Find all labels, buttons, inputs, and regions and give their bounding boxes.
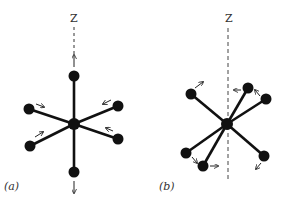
bond-lower-right — [74, 124, 118, 139]
bond-lower-left-back — [186, 124, 227, 153]
bond-lower-right — [227, 124, 264, 156]
displacement-arrow-icon — [255, 90, 260, 96]
panel-a: Z (a) — [4, 12, 124, 193]
panel-label-a: (a) — [4, 180, 19, 193]
atoms-b — [181, 83, 272, 172]
central-atom — [68, 118, 80, 130]
displacement-arrow-icon — [192, 157, 197, 163]
displacement-arrow-icon — [106, 128, 113, 131]
displacement-arrow-icon — [35, 132, 43, 137]
displacement-arrow-icon — [36, 104, 44, 107]
panel-label-b: (b) — [159, 180, 175, 193]
z-axis-label-b: Z — [225, 12, 233, 25]
atom-upper-left — [24, 104, 35, 115]
atom-lower-left-front — [198, 161, 209, 172]
bond-lower-left — [30, 124, 74, 146]
atom-upper-left — [186, 89, 197, 100]
bond-upper-left — [191, 94, 227, 124]
atom-upper-right-front — [243, 83, 254, 94]
bond-upper-left — [29, 109, 74, 124]
atom-lower-left-back — [181, 148, 192, 159]
displacement-arrow-icon — [103, 100, 111, 104]
z-axis-label-a: Z — [70, 12, 78, 25]
bond-lower-left-front — [203, 124, 227, 166]
atom-top — [69, 71, 80, 82]
panel-b: Z (b) — [159, 12, 272, 193]
displacement-arrow-icon — [195, 82, 203, 88]
atom-upper-right-back — [261, 94, 272, 105]
atom-lower-left — [25, 141, 36, 152]
molecular-vibration-figure: Z (a) Z (b) — [0, 0, 286, 205]
atom-lower-right — [259, 151, 270, 162]
bond-upper-right — [74, 106, 118, 124]
atom-upper-right — [113, 101, 124, 112]
central-atom — [221, 118, 233, 130]
atom-bottom — [69, 167, 80, 178]
displacement-arrow-icon — [256, 163, 261, 169]
atom-lower-right — [113, 134, 124, 145]
